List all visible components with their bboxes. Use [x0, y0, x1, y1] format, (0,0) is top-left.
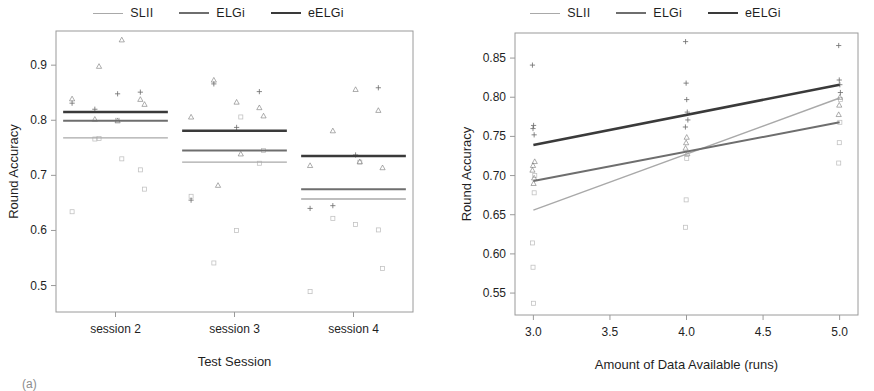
data-point [683, 146, 688, 151]
data-point [838, 90, 843, 95]
data-point [354, 222, 358, 226]
y-tick-label: 0.6 [30, 223, 47, 237]
data-point [331, 216, 335, 220]
plot-area-right[interactable]: 0.550.600.650.700.750.800.853.03.54.04.5… [437, 0, 874, 386]
data-point [234, 99, 239, 104]
y-tick-label: 0.80 [483, 90, 507, 104]
data-point [119, 37, 124, 42]
data-point [837, 77, 842, 82]
data-point [212, 261, 216, 265]
data-point [238, 151, 243, 156]
y-tick-label: 0.5 [30, 279, 47, 293]
y-tick-label: 0.55 [483, 286, 507, 300]
data-point [215, 183, 220, 188]
y-tick-label: 0.85 [483, 51, 507, 65]
data-point [380, 165, 385, 170]
y-tick-label: 0.65 [483, 208, 507, 222]
data-point [70, 210, 74, 214]
data-point [837, 161, 841, 165]
y-axis-title: Round Accuracy [6, 124, 21, 219]
data-point [261, 113, 266, 118]
data-point [836, 43, 841, 48]
data-point [685, 117, 690, 122]
y-tick-label: 0.70 [483, 169, 507, 183]
data-point [138, 97, 143, 102]
data-point [531, 123, 536, 128]
data-point [532, 191, 536, 195]
data-point [685, 156, 689, 160]
x-tick-label: 4.0 [678, 325, 695, 339]
x-tick-label: session 2 [90, 322, 141, 336]
x-tick-label: session 3 [209, 322, 260, 336]
data-point [532, 132, 537, 137]
data-point [308, 290, 312, 294]
data-point [684, 140, 689, 145]
data-point [307, 206, 312, 211]
data-point [532, 301, 536, 305]
plot-frame [56, 31, 413, 312]
data-point [530, 63, 535, 68]
data-point [684, 81, 689, 86]
y-tick-label: 0.7 [30, 168, 47, 182]
data-point [138, 168, 142, 172]
panel-right: SLII ELGi eELGi 0.550.600.650.700.750.80… [437, 0, 874, 386]
x-tick-label: session 4 [328, 322, 379, 336]
y-tick-label: 0.60 [483, 247, 507, 261]
data-point [684, 198, 688, 202]
data-point [684, 135, 689, 140]
data-point [69, 101, 74, 106]
data-point [257, 89, 262, 94]
data-point [115, 91, 120, 96]
data-point [353, 87, 358, 92]
data-point [188, 114, 193, 119]
data-point [69, 96, 74, 101]
y-tick-label: 0.8 [30, 113, 47, 127]
data-point [532, 159, 537, 164]
data-point [837, 141, 841, 145]
x-axis-title: Amount of Data Available (runs) [595, 357, 778, 372]
data-point [837, 102, 842, 107]
data-point [376, 85, 381, 90]
x-tick-label: 3.5 [602, 325, 619, 339]
data-point [234, 125, 239, 130]
data-point [239, 115, 243, 119]
panel-left: SLII ELGi eELGi 0.50.60.70.80.9session 2… [0, 0, 437, 386]
y-axis-title: Round Accuracy [459, 126, 474, 221]
x-axis-title: Test Session [198, 354, 272, 369]
data-point [330, 203, 335, 208]
data-point [142, 102, 147, 107]
data-point [307, 163, 312, 168]
data-point [235, 228, 239, 232]
figure-caption: (a) [22, 377, 37, 391]
data-point [138, 90, 143, 95]
y-tick-label: 0.75 [483, 129, 507, 143]
data-point [684, 225, 688, 229]
data-point [330, 128, 335, 133]
data-point [376, 228, 380, 232]
trend-line-elgi [533, 122, 839, 181]
data-point [381, 266, 385, 270]
data-point [96, 64, 101, 69]
data-point [531, 265, 535, 269]
data-point [530, 126, 535, 131]
x-tick-label: 3.0 [525, 325, 542, 339]
data-point [530, 167, 535, 172]
data-point [683, 124, 688, 129]
data-point [143, 187, 147, 191]
data-point [683, 39, 688, 44]
plot-area-left[interactable]: 0.50.60.70.80.9session 2session 3session… [0, 0, 437, 386]
data-point [376, 108, 381, 113]
data-point [836, 112, 841, 117]
y-tick-label: 0.9 [30, 58, 47, 72]
x-tick-label: 4.5 [755, 325, 772, 339]
data-point [684, 97, 689, 102]
data-point [257, 105, 262, 110]
data-point [120, 157, 124, 161]
x-tick-label: 5.0 [831, 325, 848, 339]
data-point [530, 241, 534, 245]
